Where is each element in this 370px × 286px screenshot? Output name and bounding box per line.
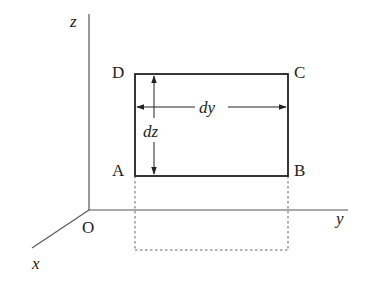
y-axis-label: y — [334, 209, 344, 228]
x-axis — [32, 210, 89, 248]
diagram-canvas: z y x O D C A B dy dz — [0, 0, 370, 286]
corner-label-b: B — [294, 161, 305, 180]
x-axis-label: x — [31, 254, 40, 273]
corner-label-d: D — [112, 63, 124, 82]
corner-label-a: A — [112, 161, 125, 180]
dy-label: dy — [199, 98, 216, 117]
z-axis-label: z — [69, 12, 77, 31]
origin-label: O — [82, 218, 94, 237]
dz-label: dz — [143, 122, 159, 141]
diagram-svg: z y x O D C A B dy dz — [0, 0, 370, 286]
projection-dashed — [135, 176, 288, 250]
corner-label-c: C — [294, 63, 305, 82]
